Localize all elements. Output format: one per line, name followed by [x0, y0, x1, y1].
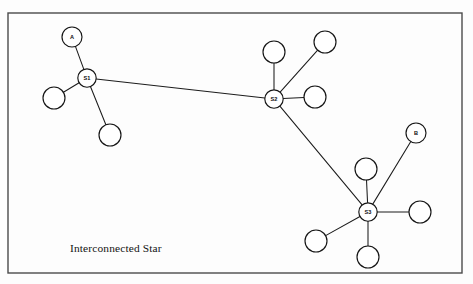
edge-S2-S3: [280, 106, 362, 205]
node-n2[interactable]: [99, 124, 121, 146]
node-label-S2: S2: [270, 96, 277, 102]
edge-S1-S2: [96, 79, 265, 98]
node-label-S1: S1: [83, 75, 90, 81]
node-n3[interactable]: [263, 41, 285, 63]
edge-B-S3: [373, 142, 411, 205]
node-n7[interactable]: [409, 201, 431, 223]
node-circle-n2[interactable]: [99, 124, 121, 146]
node-n6[interactable]: [355, 158, 377, 180]
node-circle-n5[interactable]: [304, 86, 326, 108]
node-S2[interactable]: S2: [265, 90, 283, 108]
node-B[interactable]: B: [406, 123, 426, 143]
edges-layer: [63, 46, 410, 246]
node-S1[interactable]: S1: [78, 69, 96, 87]
edge-A-S1: [75, 46, 83, 69]
edge-n1-S1: [63, 83, 79, 93]
node-S3[interactable]: S3: [359, 203, 377, 221]
edge-n6-S3: [367, 180, 368, 203]
node-n8[interactable]: [357, 246, 379, 268]
diagram-caption: Interconnected Star: [70, 242, 162, 254]
node-A[interactable]: A: [62, 27, 82, 47]
node-label-B: B: [414, 130, 418, 136]
nodes-layer: AS1S2S3B: [43, 27, 431, 268]
node-circle-n1[interactable]: [43, 87, 65, 109]
edge-n9-S3: [326, 216, 360, 235]
diagram-page: AS1S2S3B Interconnected Star: [0, 0, 473, 284]
node-n4[interactable]: [314, 31, 336, 53]
edge-n5-S2: [283, 98, 304, 99]
node-label-A: A: [70, 34, 74, 40]
network-topology-diagram: AS1S2S3B Interconnected Star: [0, 0, 473, 284]
node-circle-n8[interactable]: [357, 246, 379, 268]
node-n5[interactable]: [304, 86, 326, 108]
edge-n2-S1: [90, 87, 105, 125]
node-n9[interactable]: [305, 230, 327, 252]
node-circle-n3[interactable]: [263, 41, 285, 63]
node-circle-n9[interactable]: [305, 230, 327, 252]
node-circle-n7[interactable]: [409, 201, 431, 223]
node-circle-n6[interactable]: [355, 158, 377, 180]
node-circle-n4[interactable]: [314, 31, 336, 53]
node-label-S3: S3: [364, 209, 371, 215]
diagram-frame: [8, 13, 462, 273]
node-n1[interactable]: [43, 87, 65, 109]
